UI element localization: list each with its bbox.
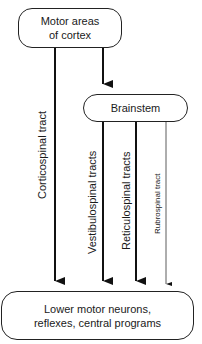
brainstem-label: Brainstem — [111, 101, 161, 115]
node-brainstem: Brainstem — [83, 94, 188, 122]
lower-line1: Lower motor neurons, — [44, 302, 151, 316]
node-motor-cortex: Motor areas of cortex — [18, 8, 122, 48]
motor-cortex-line2: of cortex — [49, 28, 91, 42]
vestibulospinal-label: Vestibulospinal tracts — [86, 151, 98, 254]
lower-line2: reflexes, central programs — [34, 316, 161, 330]
reticulospinal-label: Reticulospinal tracts — [120, 152, 132, 250]
node-lower-motor-neurons: Lower motor neurons, reflexes, central p… — [1, 291, 194, 340]
motor-cortex-line1: Motor areas — [41, 14, 100, 28]
rubrospinal-label: Rubrospinal tract — [153, 174, 162, 234]
corticospinal-label: Corticospinal tract — [36, 111, 48, 199]
